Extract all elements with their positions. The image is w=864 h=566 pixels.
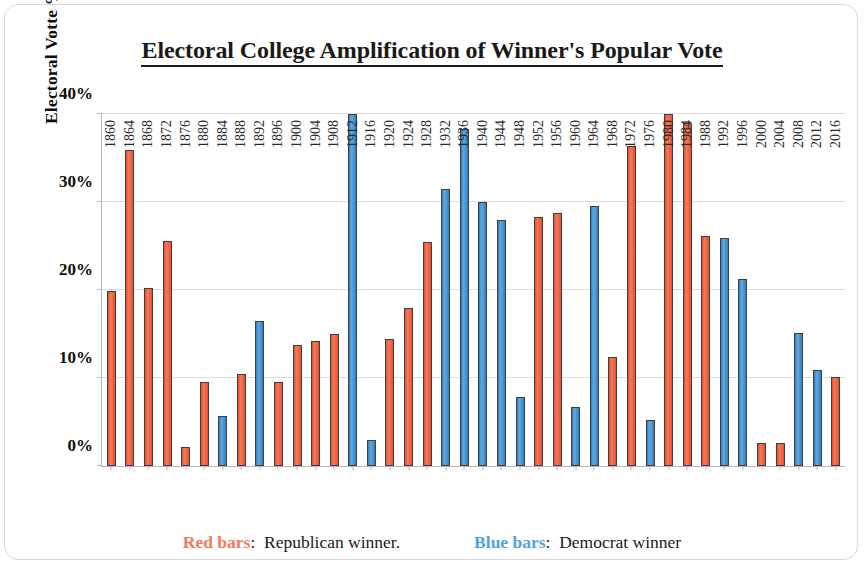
x-axis-tick-label-1968: 1968	[605, 120, 621, 148]
x-axis-tick-label-2008: 2008	[791, 120, 807, 148]
bar-slot: 2012	[808, 114, 827, 466]
bar-1880[interactable]	[200, 382, 209, 466]
x-axis-tick-mark	[148, 466, 149, 470]
x-axis-tick-label-1964: 1964	[586, 120, 602, 148]
bar-1920[interactable]	[385, 339, 394, 466]
bar-1896[interactable]	[274, 382, 283, 466]
x-axis-tick-label-1892: 1892	[252, 120, 268, 148]
bar-1956[interactable]	[553, 213, 562, 466]
bar-2012[interactable]	[813, 370, 822, 466]
bar-1908[interactable]	[330, 334, 339, 466]
x-axis-tick-mark	[371, 466, 372, 470]
x-axis-tick-mark	[482, 466, 483, 470]
x-axis-tick-label-1916: 1916	[363, 120, 379, 148]
bar-1928[interactable]	[423, 242, 432, 466]
x-axis-tick-label-1960: 1960	[568, 120, 584, 148]
bar-slot: 1924	[399, 114, 418, 466]
x-axis-tick-mark	[427, 466, 428, 470]
x-axis-tick-mark	[389, 466, 390, 470]
bar-1868[interactable]	[144, 288, 153, 466]
x-axis-tick-label-1860: 1860	[103, 120, 119, 148]
x-axis-tick-label-2004: 2004	[772, 120, 788, 148]
x-axis-tick-label-1976: 1976	[642, 120, 658, 148]
x-axis-tick-label-1932: 1932	[438, 120, 454, 148]
x-axis-tick-mark	[780, 466, 781, 470]
bar-1872[interactable]	[163, 241, 172, 466]
bar-1936[interactable]	[460, 129, 469, 466]
x-axis-tick-mark	[111, 466, 112, 470]
bar-1876[interactable]	[181, 447, 190, 466]
legend-item-democrat: Blue bars: Democrat winner	[474, 532, 681, 553]
x-axis-tick-mark	[241, 466, 242, 470]
bar-1900[interactable]	[293, 345, 302, 466]
bar-slot: 1868	[139, 114, 158, 466]
bar-1892[interactable]	[255, 321, 264, 466]
x-axis-tick-mark	[557, 466, 558, 470]
bar-1996[interactable]	[738, 279, 747, 466]
x-axis-tick-mark	[185, 466, 186, 470]
bar-slot: 1888	[232, 114, 251, 466]
bar-1916[interactable]	[367, 440, 376, 466]
x-axis-tick-mark	[501, 466, 502, 470]
x-axis-tick-mark	[464, 466, 465, 470]
bar-1912[interactable]	[348, 114, 357, 466]
bar-2008[interactable]	[794, 333, 803, 466]
bar-slot: 1896	[269, 114, 288, 466]
x-axis-tick-label-1972: 1972	[623, 120, 639, 148]
legend-label: Democrat winner	[559, 532, 681, 552]
bar-1964[interactable]	[590, 206, 599, 466]
bar-slot: 1908	[325, 114, 344, 466]
legend-key: Red bars	[183, 532, 251, 552]
bar-1992[interactable]	[720, 238, 729, 466]
x-axis-tick-label-1908: 1908	[326, 120, 342, 148]
y-axis-tick-label: 30%	[59, 172, 93, 192]
x-axis-tick-label-1988: 1988	[698, 120, 714, 148]
bar-1944[interactable]	[497, 220, 506, 466]
bar-1924[interactable]	[404, 308, 413, 466]
bar-1860[interactable]	[107, 291, 116, 466]
bar-2004[interactable]	[776, 443, 785, 466]
bar-1972[interactable]	[627, 146, 636, 466]
x-axis-tick-label-1880: 1880	[196, 120, 212, 148]
bar-1980[interactable]	[664, 114, 673, 466]
x-axis-tick-label-1904: 1904	[308, 120, 324, 148]
bar-slot: 1912	[344, 114, 363, 466]
bar-1864[interactable]	[125, 150, 134, 466]
x-axis-tick-label-1940: 1940	[475, 120, 491, 148]
bar-1952[interactable]	[534, 217, 543, 466]
bar-slot: 1952	[529, 114, 548, 466]
bar-1976[interactable]	[646, 420, 655, 466]
bar-slot: 2004	[771, 114, 790, 466]
legend-item-republican: Red bars: Republican winner.	[183, 532, 400, 553]
x-axis-tick-label-1952: 1952	[531, 120, 547, 148]
bar-2000[interactable]	[757, 443, 766, 466]
plot-area: Electoral Votte % Minus Popular Vote % 0…	[101, 114, 845, 467]
bar-slot: 1872	[158, 114, 177, 466]
bar-slot: 1972	[622, 114, 641, 466]
bar-1960[interactable]	[571, 407, 580, 466]
bar-1940[interactable]	[478, 202, 487, 466]
bar-slot: 1964	[585, 114, 604, 466]
bar-1984[interactable]	[683, 123, 692, 466]
bar-1988[interactable]	[701, 236, 710, 466]
x-axis-tick-mark	[222, 466, 223, 470]
bar-slot: 1988	[697, 114, 716, 466]
x-axis-tick-mark	[575, 466, 576, 470]
bar-slot: 1920	[381, 114, 400, 466]
legend-separator: :	[250, 532, 264, 552]
bar-1884[interactable]	[218, 416, 227, 466]
bar-1904[interactable]	[311, 341, 320, 466]
x-axis-tick-label-1980: 1980	[661, 120, 677, 148]
x-axis-tick-mark	[594, 466, 595, 470]
bar-1968[interactable]	[608, 357, 617, 466]
bar-1932[interactable]	[441, 189, 450, 466]
bar-1888[interactable]	[237, 374, 246, 466]
y-axis-tick-label: 40%	[59, 84, 93, 104]
x-axis-tick-mark	[445, 466, 446, 470]
x-axis-tick-label-1928: 1928	[419, 120, 435, 148]
bar-1948[interactable]	[516, 397, 525, 466]
bar-2016[interactable]	[831, 377, 840, 466]
x-axis-tick-label-1984: 1984	[679, 120, 695, 148]
x-axis-tick-mark	[520, 466, 521, 470]
x-axis-tick-label-2000: 2000	[754, 120, 770, 148]
